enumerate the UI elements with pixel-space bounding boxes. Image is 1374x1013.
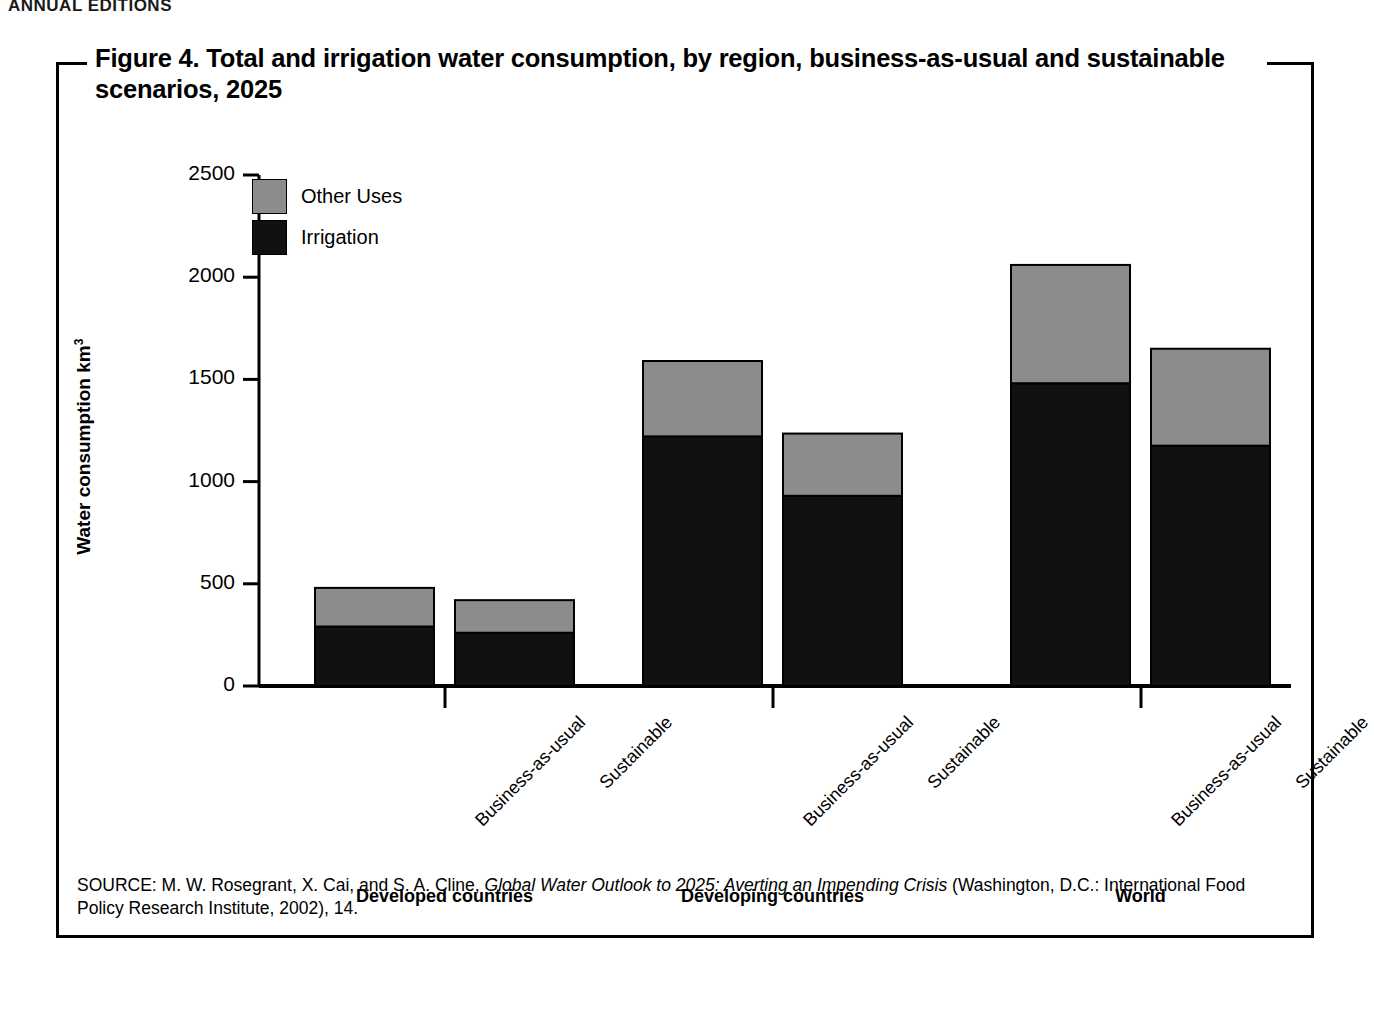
chart-plot-area: Water consumption km3 Other Uses Irrigat… [59,65,1311,935]
legend-label-irrigation: Irrigation [301,226,379,249]
bar-segment-irrigation [783,496,902,686]
y-axis-title-text: Water consumption km3 [74,339,95,555]
legend-item-irrigation: Irrigation [252,220,402,255]
bar-segment-other-uses [1011,265,1130,384]
bar-segment-irrigation [643,437,762,686]
y-tick-label: 2500 [165,161,235,185]
y-axis-title: Water consumption km3 [72,237,95,657]
bar-chart-svg [59,65,1311,865]
y-tick-label: 1500 [165,365,235,389]
bar-segment-irrigation [1011,383,1130,686]
bar-segment-irrigation [455,633,574,686]
y-tick-label: 500 [165,570,235,594]
bar-segment-other-uses [643,361,762,437]
bar-segment-irrigation [315,627,434,686]
bar-segment-other-uses [783,434,902,496]
bar-segment-other-uses [455,600,574,633]
bar-segment-other-uses [1151,349,1270,446]
running-head: ANNUAL EDITIONS [8,0,172,16]
source-note: SOURCE: M. W. Rosegrant, X. Cai, and S. … [77,874,1267,921]
legend-swatch-irrigation [252,220,287,255]
y-tick-label: 1000 [165,468,235,492]
chart-legend: Other Uses Irrigation [252,179,402,261]
figure-container: Figure 4. Total and irrigation water con… [56,62,1314,938]
source-title-italic: Global Water Outlook to 2025: Averting a… [485,875,948,895]
bar-segment-other-uses [315,588,434,627]
legend-label-other-uses: Other Uses [301,185,402,208]
source-prefix: SOURCE: M. W. Rosegrant, X. Cai, and S. … [77,875,485,895]
bar-segment-irrigation [1151,446,1270,686]
legend-item-other-uses: Other Uses [252,179,402,214]
legend-swatch-other-uses [252,179,287,214]
y-tick-label: 0 [165,672,235,696]
y-tick-label: 2000 [165,263,235,287]
